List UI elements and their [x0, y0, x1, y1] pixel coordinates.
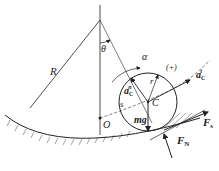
label-r: r	[150, 76, 154, 86]
normal-force-arrow	[164, 134, 172, 158]
radius-line	[30, 20, 100, 108]
label-FN: FN	[176, 134, 189, 148]
path-arc-s	[100, 60, 210, 118]
label-C: C	[152, 97, 159, 108]
label-Fs: Fs	[202, 116, 213, 130]
label-plus: (+)	[166, 63, 177, 72]
label-alpha: α	[142, 51, 148, 62]
alpha-arc	[112, 68, 140, 82]
diagram-canvas: R θ α (+) r C O s mg aCn aCt FN Fs	[0, 0, 219, 171]
label-O: O	[103, 119, 110, 130]
label-aCn: aCn	[124, 84, 133, 97]
friction-force-arrow	[164, 112, 208, 130]
label-s: s	[120, 99, 124, 109]
label-aCt: aCt	[196, 68, 205, 81]
label-R: R	[49, 65, 57, 77]
point-O	[99, 117, 102, 120]
label-theta: θ	[101, 43, 106, 54]
label-mg: mg	[134, 114, 147, 125]
